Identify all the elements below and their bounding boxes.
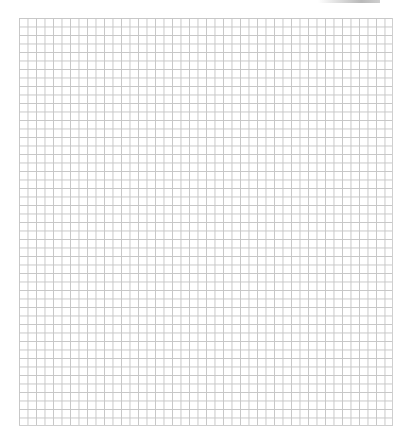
top-edge-shadow: [318, 0, 380, 3]
graph-paper-grid: [19, 18, 393, 426]
graph-paper-page: [0, 0, 414, 448]
